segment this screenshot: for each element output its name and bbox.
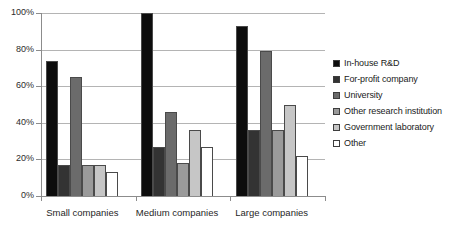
legend-item: In-house R&D bbox=[333, 55, 461, 71]
x-axis-category-label: Large companies bbox=[217, 207, 327, 218]
bar bbox=[177, 163, 189, 196]
y-axis-tick-mark bbox=[36, 196, 41, 197]
plot-area bbox=[41, 13, 325, 196]
y-axis-tick-label: 40% bbox=[16, 118, 34, 127]
bar bbox=[284, 105, 296, 197]
y-axis-line bbox=[41, 13, 42, 197]
bar-group bbox=[236, 13, 308, 196]
y-axis-labels: 100%80%60%40%20%0% bbox=[0, 0, 34, 231]
chart-legend: In-house R&DFor-profit companyUniversity… bbox=[333, 55, 461, 151]
y-axis-tick-mark bbox=[36, 13, 41, 14]
bar bbox=[94, 165, 106, 196]
legend-item: University bbox=[333, 87, 461, 103]
bar bbox=[260, 51, 272, 196]
y-axis-tick-mark bbox=[36, 50, 41, 51]
legend-item: Government laboratory bbox=[333, 119, 461, 135]
legend-item-label: In-house R&D bbox=[344, 58, 399, 68]
legend-swatch-icon bbox=[333, 92, 340, 99]
bar bbox=[70, 77, 82, 196]
legend-swatch-icon bbox=[333, 124, 340, 131]
y-axis-tick-label: 80% bbox=[16, 45, 34, 54]
bar bbox=[153, 147, 165, 196]
legend-item-label: University bbox=[344, 90, 383, 100]
y-axis-tick-label: 60% bbox=[16, 81, 34, 90]
bar bbox=[248, 130, 260, 196]
x-axis-tick-mark bbox=[230, 196, 231, 201]
bar bbox=[106, 172, 118, 196]
bar bbox=[272, 130, 284, 196]
legend-item-label: Government laboratory bbox=[344, 122, 434, 132]
x-axis-tick-mark bbox=[325, 196, 326, 201]
legend-item: Other research institution bbox=[333, 103, 461, 119]
y-axis-tick-mark bbox=[36, 123, 41, 124]
bar-group bbox=[141, 13, 213, 196]
y-axis-tick-mark bbox=[36, 159, 41, 160]
bar bbox=[296, 156, 308, 196]
legend-item: For-profit company bbox=[333, 71, 461, 87]
bar-chart: 100%80%60%40%20%0% Small companiesMedium… bbox=[0, 0, 461, 231]
bar bbox=[201, 147, 213, 196]
y-axis-tick-label: 0% bbox=[21, 191, 34, 200]
bar-group bbox=[46, 13, 118, 196]
legend-swatch-icon bbox=[333, 140, 340, 147]
legend-item: Other bbox=[333, 135, 461, 151]
legend-item-label: For-profit company bbox=[344, 74, 418, 84]
bar bbox=[141, 13, 153, 196]
x-axis-tick-mark bbox=[136, 196, 137, 201]
bar bbox=[58, 165, 70, 196]
legend-swatch-icon bbox=[333, 108, 340, 115]
bar bbox=[46, 61, 58, 196]
y-axis-tick-label: 20% bbox=[16, 154, 34, 163]
bar bbox=[82, 165, 94, 196]
x-axis-line bbox=[41, 196, 326, 197]
bar bbox=[236, 26, 248, 196]
y-axis-tick-label: 100% bbox=[11, 8, 34, 17]
legend-item-label: Other bbox=[344, 138, 366, 148]
y-axis-tick-mark bbox=[36, 86, 41, 87]
x-axis-category-label: Medium companies bbox=[122, 207, 232, 218]
legend-swatch-icon bbox=[333, 76, 340, 83]
legend-swatch-icon bbox=[333, 60, 340, 67]
bar bbox=[189, 130, 201, 196]
bar bbox=[165, 112, 177, 196]
legend-item-label: Other research institution bbox=[344, 106, 442, 116]
x-axis-tick-mark bbox=[41, 196, 42, 201]
x-axis-category-label: Small companies bbox=[27, 207, 137, 218]
